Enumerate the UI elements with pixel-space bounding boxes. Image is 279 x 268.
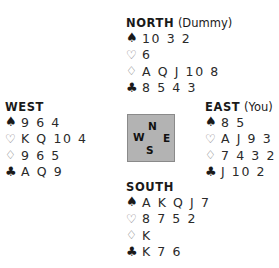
spade-cards: 9 6 4: [21, 115, 61, 130]
seat-role: (Dummy): [178, 16, 232, 30]
club-icon: ♣: [126, 81, 142, 95]
heart-cards: 6: [142, 47, 152, 62]
spade-cards: A K Q J 7: [142, 195, 211, 210]
diamond-icon: ♢: [126, 228, 142, 242]
heart-icon: ♡: [126, 212, 142, 226]
hearts-row: ♡ A J 9 3: [205, 131, 276, 148]
seat-name: NORTH: [126, 16, 174, 30]
club-cards: J 10 2: [221, 164, 266, 179]
spades-row: ♠ 10 3 2: [126, 30, 232, 47]
compass-table: N W E S: [127, 114, 175, 162]
hearts-row: ♡ 6: [126, 47, 232, 64]
clubs-row: ♣ K 7 6: [126, 244, 211, 261]
seat-name: SOUTH: [126, 180, 174, 194]
club-icon: ♣: [126, 245, 142, 259]
diamond-cards: 9 6 5: [21, 148, 61, 163]
compass-south: S: [146, 145, 154, 156]
diamonds-row: ♢ A Q J 10 8: [126, 63, 232, 80]
clubs-row: ♣ J 10 2: [205, 164, 276, 181]
seat-role: (You): [244, 100, 273, 114]
heart-cards: 8 7 5 2: [142, 211, 197, 226]
hand-title: EAST (You): [205, 100, 276, 114]
south-hand: SOUTH ♠ A K Q J 7 ♡ 8 7 5 2 ♢ K ♣ K 7 6: [126, 180, 211, 260]
diamonds-row: ♢ 9 6 5: [5, 147, 88, 164]
heart-icon: ♡: [5, 132, 21, 146]
spade-icon: ♠: [5, 115, 21, 129]
diamonds-row: ♢ 7 4 3 2: [205, 147, 276, 164]
diamond-cards: K: [142, 228, 152, 243]
spade-cards: 10 3 2: [142, 31, 191, 46]
spades-row: ♠ 9 6 4: [5, 114, 88, 131]
heart-icon: ♡: [126, 48, 142, 62]
north-hand: NORTH (Dummy) ♠ 10 3 2 ♡ 6 ♢ A Q J 10 8 …: [126, 16, 232, 96]
spades-row: ♠ 8 5: [205, 114, 276, 131]
diamond-icon: ♢: [126, 64, 142, 78]
seat-name: EAST: [205, 100, 240, 114]
club-cards: K 7 6: [142, 244, 182, 259]
spade-icon: ♠: [126, 31, 142, 45]
diamond-icon: ♢: [5, 148, 21, 162]
compass-north: N: [148, 121, 157, 132]
club-cards: A Q 9: [21, 164, 63, 179]
hand-title: NORTH (Dummy): [126, 16, 232, 30]
diamond-icon: ♢: [205, 148, 221, 162]
compass-east: E: [163, 133, 170, 144]
spade-cards: 8 5: [221, 115, 246, 130]
compass-west: W: [133, 132, 145, 143]
diamond-cards: 7 4 3 2: [221, 148, 276, 163]
heart-cards: A J 9 3: [221, 131, 272, 146]
east-hand: EAST (You) ♠ 8 5 ♡ A J 9 3 ♢ 7 4 3 2 ♣ J…: [205, 100, 276, 180]
spade-icon: ♠: [205, 115, 221, 129]
club-cards: 8 5 4 3: [142, 80, 197, 95]
hearts-row: ♡ 8 7 5 2: [126, 211, 211, 228]
club-icon: ♣: [205, 165, 221, 179]
heart-icon: ♡: [205, 132, 221, 146]
hearts-row: ♡ K Q 10 4: [5, 131, 88, 148]
diamond-cards: A Q J 10 8: [142, 64, 220, 79]
hand-title: WEST: [5, 100, 88, 114]
clubs-row: ♣ 8 5 4 3: [126, 80, 232, 97]
seat-name: WEST: [5, 100, 44, 114]
spades-row: ♠ A K Q J 7: [126, 194, 211, 211]
clubs-row: ♣ A Q 9: [5, 164, 88, 181]
diamonds-row: ♢ K: [126, 227, 211, 244]
heart-cards: K Q 10 4: [21, 131, 88, 146]
west-hand: WEST ♠ 9 6 4 ♡ K Q 10 4 ♢ 9 6 5 ♣ A Q 9: [5, 100, 88, 180]
spade-icon: ♠: [126, 195, 142, 209]
club-icon: ♣: [5, 165, 21, 179]
hand-title: SOUTH: [126, 180, 211, 194]
